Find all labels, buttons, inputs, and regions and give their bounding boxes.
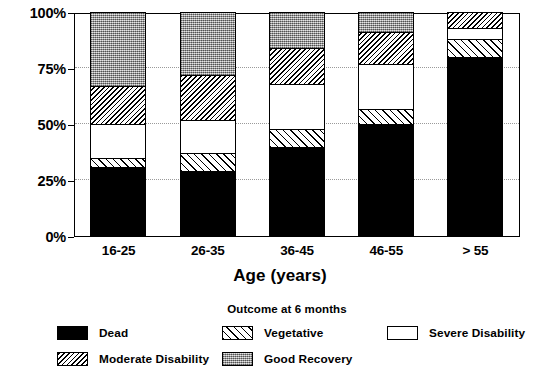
bar-segment[interactable] xyxy=(358,12,414,33)
legend-swatch xyxy=(222,352,253,366)
bar-46-55[interactable] xyxy=(359,14,415,236)
bar-segment[interactable] xyxy=(358,64,414,110)
bar-segment[interactable] xyxy=(180,153,236,172)
legend-item[interactable]: Good Recovery xyxy=(222,351,353,367)
bar-26-35[interactable] xyxy=(181,14,237,236)
y-axis-tick-mark xyxy=(68,125,74,126)
y-axis-tick-mark xyxy=(68,237,74,238)
bar-segment[interactable] xyxy=(269,146,325,237)
bar-segment[interactable] xyxy=(447,57,503,237)
legend-item[interactable]: Severe Disability xyxy=(387,325,525,341)
chart-figure: 0%25%50%75%100% 16-2526-3536-4546-55> 55… xyxy=(0,0,560,379)
y-axis-tick-label: 75% xyxy=(6,61,66,77)
bar-segment[interactable] xyxy=(358,108,414,125)
legend-label: Dead xyxy=(99,326,128,340)
bar-segment[interactable] xyxy=(269,128,325,147)
y-axis-tick-mark xyxy=(68,69,74,70)
legend-swatch xyxy=(57,352,88,366)
y-axis-tick-mark xyxy=(68,181,74,182)
legend-swatch xyxy=(387,326,418,340)
y-axis-tick-label: 100% xyxy=(6,5,66,21)
legend: Outcome at 6 months DeadVegetativeSevere… xyxy=(0,303,560,373)
legend-swatch xyxy=(57,326,88,340)
legend-title: Outcome at 6 months xyxy=(0,303,560,315)
bar-36-45[interactable] xyxy=(270,14,326,236)
x-axis-tick-label: > 55 xyxy=(420,243,530,258)
y-axis-tick-mark xyxy=(68,13,74,14)
bar-segment[interactable] xyxy=(358,32,414,65)
bar-segment[interactable] xyxy=(90,86,146,125)
bar-segment[interactable] xyxy=(180,120,236,155)
bar-segment[interactable] xyxy=(269,48,325,85)
bar-16-25[interactable] xyxy=(92,14,148,236)
bar-segment[interactable] xyxy=(447,28,503,40)
legend-label: Good Recovery xyxy=(264,352,353,366)
bar-segment[interactable] xyxy=(90,167,146,238)
bar-segment[interactable] xyxy=(90,124,146,159)
plot-area xyxy=(74,13,520,237)
bar-segment[interactable] xyxy=(447,12,503,29)
bar-segment[interactable] xyxy=(90,158,146,168)
y-axis-tick-label: 0% xyxy=(6,229,66,245)
y-axis-tick-label: 50% xyxy=(6,117,66,133)
legend-items: DeadVegetativeSevere DisabilityModerate … xyxy=(0,325,560,373)
legend-label: Severe Disability xyxy=(429,326,525,340)
legend-item[interactable]: Moderate Disability xyxy=(57,351,209,367)
legend-item[interactable]: Vegetative xyxy=(222,325,323,341)
legend-item[interactable]: Dead xyxy=(57,325,128,341)
legend-label: Moderate Disability xyxy=(99,352,209,366)
x-axis-title: Age (years) xyxy=(0,266,560,286)
bar-segment[interactable] xyxy=(269,84,325,130)
bar-segment[interactable] xyxy=(90,12,146,87)
bar-segment[interactable] xyxy=(180,171,236,237)
legend-swatch xyxy=(222,326,253,340)
bar-55[interactable] xyxy=(448,14,504,236)
bar-segment[interactable] xyxy=(358,124,414,237)
legend-label: Vegetative xyxy=(264,326,323,340)
bar-segment[interactable] xyxy=(180,75,236,121)
y-axis-tick-label: 25% xyxy=(6,173,66,189)
bar-segment[interactable] xyxy=(180,12,236,76)
bar-segment[interactable] xyxy=(447,39,503,58)
bar-segment[interactable] xyxy=(269,12,325,49)
